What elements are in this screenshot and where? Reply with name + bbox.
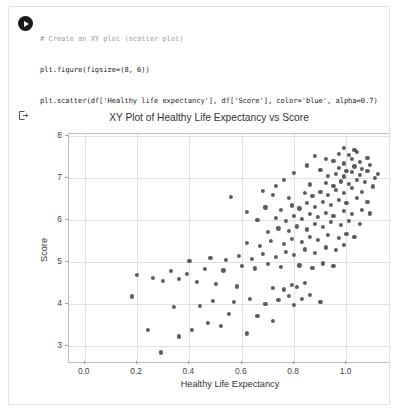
scatter-point xyxy=(321,225,325,229)
scatter-point xyxy=(261,189,265,193)
scatter-point xyxy=(303,281,307,285)
scatter-point xyxy=(145,328,149,332)
scatter-point xyxy=(303,247,307,251)
scatter-point xyxy=(151,276,155,280)
scatter-point xyxy=(245,210,249,214)
scatter-point xyxy=(245,241,249,245)
y-tick xyxy=(65,135,68,136)
scatter-point xyxy=(365,168,369,172)
scatter-point xyxy=(292,252,296,256)
scatter-point xyxy=(185,272,189,276)
scatter-point xyxy=(371,184,375,188)
scatter-point xyxy=(337,236,341,240)
scatter-point xyxy=(313,154,317,158)
scatter-point xyxy=(305,201,309,205)
scatter-point xyxy=(208,256,212,260)
y-tick xyxy=(65,177,68,178)
scatter-point xyxy=(355,178,359,182)
gridline-horizontal xyxy=(69,304,390,305)
x-tick-label: 0.6 xyxy=(226,366,256,376)
scatter-point xyxy=(355,196,359,200)
scatter-point xyxy=(334,172,338,176)
scatter-point xyxy=(159,350,163,354)
x-tick-label: 0.0 xyxy=(69,366,99,376)
scatter-point xyxy=(350,212,354,216)
x-tick xyxy=(84,361,85,364)
scatter-point xyxy=(308,212,312,216)
scatter-point xyxy=(321,200,325,204)
scatter-point xyxy=(344,168,348,172)
scatter-point xyxy=(177,277,181,281)
scatter-point xyxy=(263,205,267,209)
scatter-point xyxy=(331,264,335,268)
scatter-point xyxy=(352,164,356,168)
scatter-point xyxy=(360,189,364,193)
scatter-point xyxy=(289,203,293,207)
scatter-point xyxy=(284,249,288,253)
scatter-point xyxy=(203,267,207,271)
scatter-point xyxy=(258,244,262,248)
scatter-point xyxy=(357,173,361,177)
x-tick-label: 0.2 xyxy=(121,366,151,376)
scatter-point xyxy=(295,285,299,289)
scatter-point xyxy=(268,239,272,243)
scatter-point xyxy=(261,252,265,256)
scatter-point xyxy=(279,265,283,269)
scatter-point xyxy=(135,273,139,277)
scatter-point xyxy=(376,172,380,176)
scatter-point xyxy=(321,261,325,265)
scatter-point xyxy=(300,297,304,301)
scatter-point xyxy=(339,223,343,227)
scatter-point xyxy=(313,222,317,226)
scatter-point xyxy=(310,194,314,198)
scatter-point xyxy=(342,209,346,213)
scatter-point xyxy=(344,231,348,235)
scatter-point xyxy=(295,224,299,228)
scatter-point xyxy=(368,211,372,215)
scatter-point xyxy=(255,314,259,318)
scatter-point xyxy=(323,157,327,161)
x-tick xyxy=(241,361,242,364)
scatter-point xyxy=(214,282,218,286)
scatter-point xyxy=(284,219,288,223)
scatter-point xyxy=(263,302,267,306)
scatter-point xyxy=(316,238,320,242)
y-tick xyxy=(65,345,68,346)
scatter-point xyxy=(331,214,335,218)
scatter-point xyxy=(363,180,367,184)
run-cell-button[interactable] xyxy=(18,16,33,31)
scatter-point xyxy=(198,304,202,308)
gridline-horizontal xyxy=(69,346,390,347)
scatter-point xyxy=(360,167,364,171)
scatter-point xyxy=(308,293,312,297)
scatter-point xyxy=(266,230,270,234)
y-tick-label: 3 xyxy=(38,340,62,350)
scatter-point xyxy=(318,189,322,193)
play-icon xyxy=(24,21,29,27)
scatter-point xyxy=(350,170,354,174)
x-tick-label: 1.0 xyxy=(330,366,360,376)
scatter-point xyxy=(271,286,275,290)
scatter-point xyxy=(282,178,286,182)
code-cell[interactable]: # Create an XY plot (scatter plot) plt.f… xyxy=(9,7,389,105)
scatter-point xyxy=(248,297,252,301)
scatter-point xyxy=(287,229,291,233)
scatter-point xyxy=(266,262,270,266)
scatter-point xyxy=(297,263,301,267)
y-tick-label: 5 xyxy=(38,256,62,266)
scatter-point xyxy=(227,312,231,316)
scatter-point xyxy=(282,287,286,291)
scatter-point xyxy=(234,284,238,288)
scatter-point xyxy=(313,205,317,209)
scatter-point xyxy=(329,220,333,224)
scatter-point xyxy=(337,165,341,169)
scatter-point xyxy=(274,184,278,188)
scatter-point xyxy=(326,233,330,237)
scatter-point xyxy=(287,294,291,298)
scatter-point xyxy=(350,186,354,190)
scatter-point xyxy=(289,283,293,287)
x-tick xyxy=(293,361,294,364)
scatter-point xyxy=(221,268,225,272)
scatter-point xyxy=(305,227,309,231)
chart-title: XY Plot of Healthy Life Expectancy vs Sc… xyxy=(31,112,387,123)
